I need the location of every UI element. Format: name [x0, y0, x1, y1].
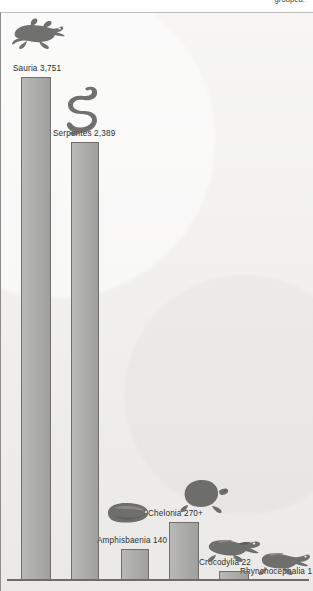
plot-area: Sauria 3,751 Serpentes 2,389 Amphisbaeni…: [1, 13, 313, 591]
caption-fragment-text: grouped.: [275, 0, 305, 4]
bar-label-amphisbaenia: Amphisbaenia 140: [97, 537, 167, 545]
lizard-icon: [8, 16, 70, 56]
bar-label-rhynchocephalia: Rhynchocephalia 1: [240, 568, 312, 576]
bar-serpentes: [71, 142, 99, 581]
bar-label-chelonia: Chelonia 270+: [148, 510, 203, 518]
bar-amphisbaenia: [121, 549, 149, 581]
bar-chelonia: [169, 522, 199, 581]
bar-label-serpentes: Serpentes 2,389: [53, 130, 115, 138]
bar-label-crocodylia: Crocodylia 22: [199, 559, 251, 567]
bar-label-sauria: Sauria 3,751: [13, 65, 61, 73]
baseline-axis: [7, 579, 309, 581]
caption-fragment: grouped.: [0, 0, 313, 12]
bar-sauria: [21, 77, 51, 581]
wormlizard-icon: [102, 497, 152, 531]
bar-chart-figure: Sauria 3,751 Serpentes 2,389 Amphisbaeni…: [0, 12, 313, 591]
